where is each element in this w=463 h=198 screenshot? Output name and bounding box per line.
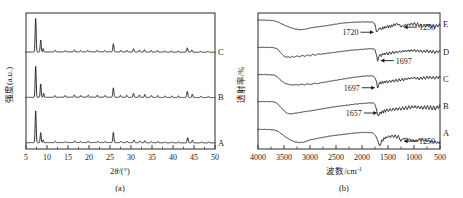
xrd-curve-B xyxy=(26,66,215,97)
ftir-annotation-1720-0: 1720 xyxy=(343,28,374,37)
xrd-x-axis-title: 2θ/(°) xyxy=(110,166,130,176)
ftir-x-axis-title: 波数/cm-1 xyxy=(326,166,362,176)
xrd-tick-label: 10 xyxy=(43,153,51,162)
xrd-chart-svg: 5101520253035404550 CBA 2θ/(°) (a) 强度(a.… xyxy=(0,0,231,198)
xrd-curve-A xyxy=(26,111,215,143)
xrd-tick-label: 20 xyxy=(85,153,93,162)
xrd-tick-labels: 5101520253035404550 xyxy=(24,153,219,162)
xrd-tick-label: 35 xyxy=(148,153,156,162)
annotation-label: 1250 xyxy=(419,23,435,32)
ftir-curve-labels: EDCBA xyxy=(443,19,450,138)
ftir-annotation-1697-3: 1697 xyxy=(344,84,375,93)
ftir-x-axis-title-sup: -1 xyxy=(357,166,362,172)
ftir-tick-label: 2500 xyxy=(328,153,344,162)
ftir-curve-label-B: B xyxy=(443,101,449,111)
xrd-curve-label-B: B xyxy=(218,92,224,102)
panel-a-caption: (a) xyxy=(115,183,125,193)
ftir-curve-label-C: C xyxy=(443,74,449,84)
ftir-tick-marks xyxy=(258,145,440,149)
annotation-arrow-head xyxy=(373,111,377,115)
xrd-tick-marks xyxy=(26,145,215,149)
figure-container: 5101520253035404550 CBA 2θ/(°) (a) 强度(a.… xyxy=(0,0,463,198)
xrd-tick-label: 40 xyxy=(169,153,177,162)
xrd-curve-label-C: C xyxy=(218,47,224,57)
annotation-arrow-head xyxy=(404,139,408,143)
ftir-tick-labels: 4000350030002500200015001000500 xyxy=(250,153,446,162)
annotation-arrow-head xyxy=(371,86,375,90)
ftir-tick-label: 3000 xyxy=(302,153,318,162)
ftir-tick-label: 1500 xyxy=(380,153,396,162)
ftir-y-axis-title: 透射率/% xyxy=(236,67,246,103)
xrd-tick-label: 50 xyxy=(211,153,219,162)
annotation-label: 1657 xyxy=(346,109,362,118)
xrd-tick-label: 25 xyxy=(106,153,114,162)
panel-a-xrd: 5101520253035404550 CBA 2θ/(°) (a) 强度(a.… xyxy=(0,0,231,198)
xrd-tick-label: 5 xyxy=(24,153,28,162)
xrd-tick-label: 30 xyxy=(127,153,135,162)
xrd-curve-C xyxy=(26,18,215,52)
annotation-label: 1720 xyxy=(343,28,359,37)
xrd-y-axis-title: 强度(a.u.) xyxy=(4,67,14,103)
annotation-label: 1250 xyxy=(419,137,435,146)
ftir-curve-A xyxy=(258,129,440,145)
xrd-curve-label-A: A xyxy=(218,138,225,148)
ftir-tick-label: 2000 xyxy=(354,153,370,162)
panel-b-ftir: 4000350030002500200015001000500 EDCBA 17… xyxy=(232,0,463,198)
ftir-curve-label-A: A xyxy=(443,128,450,138)
annotation-label: 1697 xyxy=(344,84,360,93)
ftir-curve-label-E: E xyxy=(443,19,448,29)
xrd-curve-labels: CBA xyxy=(218,47,225,148)
annotation-arrow-head xyxy=(381,59,385,63)
ftir-curve-D xyxy=(258,47,440,61)
ftir-annotation-1250-5: 1250 xyxy=(404,137,435,146)
xrd-tick-label: 45 xyxy=(190,153,198,162)
ftir-tick-label: 500 xyxy=(434,153,446,162)
ftir-tick-label: 4000 xyxy=(250,153,266,162)
xrd-plot-frame xyxy=(26,13,215,149)
ftir-annotation-1697-2: 1697 xyxy=(381,57,412,66)
ftir-tick-label: 3500 xyxy=(276,153,292,162)
ftir-curve-label-D: D xyxy=(443,47,449,57)
ftir-x-axis-title-main: 波数/cm xyxy=(326,166,357,176)
annotation-label: 1697 xyxy=(396,57,412,66)
xrd-tick-label: 15 xyxy=(64,153,72,162)
ftir-chart-svg: 4000350030002500200015001000500 EDCBA 17… xyxy=(232,0,463,198)
ftir-peak-annotations: 172012501697169716571250 xyxy=(343,23,435,146)
annotation-arrow-head xyxy=(370,30,374,34)
ftir-tick-label: 1000 xyxy=(406,153,422,162)
panel-b-caption: (b) xyxy=(339,183,349,193)
ftir-annotation-1657-4: 1657 xyxy=(346,109,377,118)
xrd-axes-frame xyxy=(26,13,215,149)
xrd-curves-group xyxy=(26,18,215,143)
